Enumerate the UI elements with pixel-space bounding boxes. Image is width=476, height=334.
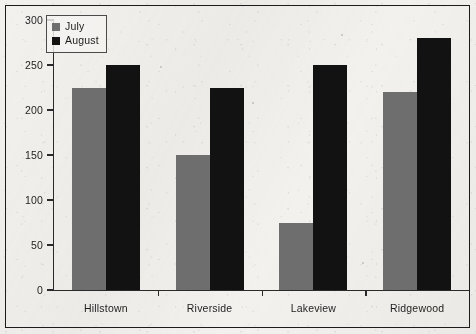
y-tick-mark [47,199,54,200]
legend-label-july: July [65,21,84,32]
july-swatch-icon [52,23,60,31]
bar-rect [210,88,244,291]
legend-item-august: August [52,34,99,47]
bar-august-lakeview [313,20,347,290]
y-tick-label: 100 [25,194,43,206]
y-tick-mark [47,109,54,110]
x-category-label-lakeview: Lakeview [291,302,336,314]
bar-rect [106,65,140,290]
bar-rect [383,92,417,290]
scanned-chart-page: 300250200150100500 HillstownRiversideLak… [0,0,476,334]
y-tick-label: 300 [25,14,43,26]
legend-label-august: August [65,35,99,46]
x-category-label-hillstown: Hillstown [84,302,128,314]
y-axis-labels: 300250200150100500 [0,0,43,334]
bar-rect [417,38,451,290]
x-tick-mark [365,290,366,296]
y-tick-label: 200 [25,104,43,116]
x-tick-mark [262,290,263,296]
bar-july-hillstown [72,20,106,290]
plot-area [54,20,469,290]
august-swatch-icon [52,37,60,45]
bar-july-riverside [176,20,210,290]
bar-rect [279,223,313,291]
y-tick-label: 0 [37,284,43,296]
bar-august-hillstown [106,20,140,290]
y-tick-mark [47,244,54,245]
bar-august-ridgewood [417,20,451,290]
legend-item-july: July [52,20,99,33]
x-tick-mark [158,290,159,296]
bar-rect [176,155,210,290]
y-tick-mark [47,289,54,290]
x-category-label-riverside: Riverside [187,302,233,314]
y-tick-label: 150 [25,149,43,161]
bar-july-ridgewood [383,20,417,290]
bar-july-lakeview [279,20,313,290]
x-category-label-ridgewood: Ridgewood [390,302,444,314]
bar-august-riverside [210,20,244,290]
bar-rect [313,65,347,290]
y-tick-mark [47,64,54,65]
y-tick-label: 250 [25,59,43,71]
y-tick-mark [47,154,54,155]
y-tick-label: 50 [31,239,43,251]
chart-legend: July August [46,15,107,53]
bar-rect [72,88,106,291]
